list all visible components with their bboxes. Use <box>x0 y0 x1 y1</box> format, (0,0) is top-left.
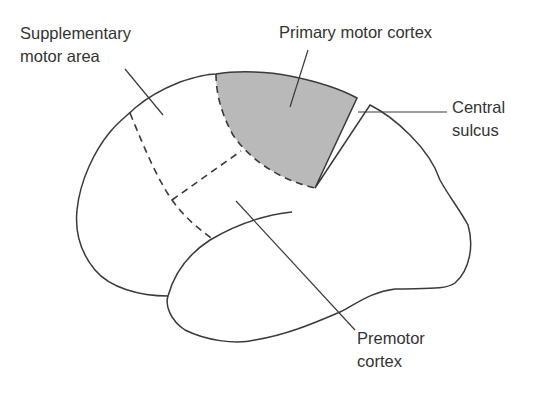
temporal-lobe-upper-border <box>168 212 292 296</box>
label-central-sulcus: Central sulcus <box>452 96 505 142</box>
premotor-dashed-border <box>172 151 241 200</box>
sma-premotor-dashed-border <box>130 113 211 238</box>
label-premotor-cortex: Premotor cortex <box>357 327 425 373</box>
premotor-leader-line <box>236 201 355 330</box>
label-supplementary-motor-area: Supplementary motor area <box>20 22 131 68</box>
label-primary-motor-cortex: Primary motor cortex <box>279 21 432 44</box>
